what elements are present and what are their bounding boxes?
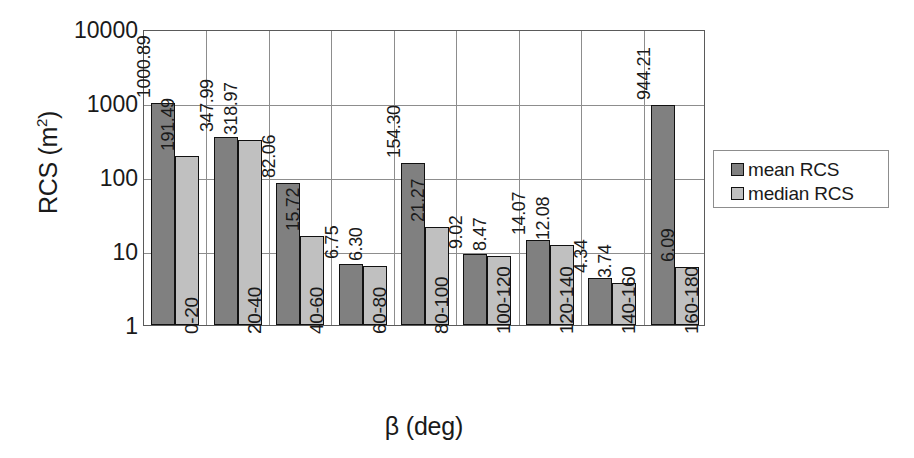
x-axis-tick-label: 80-100: [432, 277, 451, 334]
bar-value-label: 944.21: [635, 47, 653, 100]
bar-group: 82.0615.72: [276, 31, 324, 325]
bar-value-label: 14.07: [510, 192, 528, 235]
gridline-vertical: [331, 31, 332, 325]
bar-value-label: 82.06: [260, 135, 278, 178]
legend-item-label: mean RCS: [748, 160, 839, 179]
x-axis-title: β (deg): [143, 414, 705, 439]
y-axis-tick-labels: 100001000100101: [42, 0, 138, 458]
legend-swatch-icon: [731, 187, 744, 200]
bar-group: 1000.89191.49: [151, 31, 199, 325]
bar-value-label: 154.30: [385, 105, 403, 158]
bar-value-label: 6.30: [347, 227, 365, 260]
gridline-vertical: [456, 31, 457, 325]
bar-value-label: 3.74: [596, 244, 614, 277]
bar-value-label: 15.72: [284, 188, 302, 231]
x-axis-tick-label: 120-140: [557, 266, 576, 334]
y-axis-tick-label: 10: [46, 241, 138, 264]
gridline-vertical: [206, 31, 207, 325]
x-axis-tick-label: 20-40: [245, 287, 264, 334]
y-axis-tick-label: 100: [46, 167, 138, 190]
bar-value-label: 191.49: [159, 98, 177, 151]
bar-mean-rcs[interactable]: [526, 240, 550, 325]
bar-value-label: 6.09: [659, 229, 677, 262]
legend-swatch-icon: [731, 163, 744, 176]
bar-value-label: 1000.89: [135, 36, 153, 98]
y-axis-tick-label: 10000: [46, 19, 138, 42]
bar-mean-rcs[interactable]: [651, 105, 675, 325]
y-axis-tick-label: 1: [46, 315, 138, 338]
bar-value-label: 12.08: [534, 197, 552, 240]
bar-value-label: 347.99: [198, 79, 216, 132]
legend-item[interactable]: mean RCS: [731, 158, 888, 180]
bar-value-label: 318.97: [222, 82, 240, 135]
bar-mean-rcs[interactable]: [339, 264, 363, 325]
gridline-vertical: [581, 31, 582, 325]
legend-item[interactable]: median RCS: [731, 182, 888, 204]
legend-item-label: median RCS: [748, 184, 854, 203]
bar-value-label: 8.47: [471, 218, 489, 251]
bar-group: 6.756.30: [339, 31, 387, 325]
chart-figure: RCS (m2) 100001000100101 1000.89191.4934…: [0, 0, 914, 458]
gridline-vertical: [269, 31, 270, 325]
bar-value-label: 6.75: [323, 225, 341, 258]
x-axis-tick-label: 140-160: [619, 266, 638, 334]
chart-legend: mean RCSmedian RCS: [713, 150, 889, 208]
x-axis-tick-label: 160-180: [682, 266, 701, 334]
bar-mean-rcs[interactable]: [214, 137, 238, 325]
gridline-vertical: [519, 31, 520, 325]
bar-value-label: 9.02: [447, 216, 465, 249]
gridline-vertical: [394, 31, 395, 325]
x-axis-tick-label: 0-20: [182, 297, 201, 334]
y-axis-tick-label: 1000: [46, 93, 138, 116]
bar-value-label: 21.27: [409, 179, 427, 222]
bar-mean-rcs[interactable]: [463, 254, 487, 325]
x-axis-tick-label: 100-120: [494, 266, 513, 334]
x-axis-tick-label: 40-60: [307, 287, 326, 334]
x-axis-tick-labels: 0-2020-4040-6060-8080-100100-120120-1401…: [143, 326, 705, 416]
x-axis-tick-label: 60-80: [370, 287, 389, 334]
bar-mean-rcs[interactable]: [588, 278, 612, 325]
bar-group: 347.99318.97: [214, 31, 262, 325]
